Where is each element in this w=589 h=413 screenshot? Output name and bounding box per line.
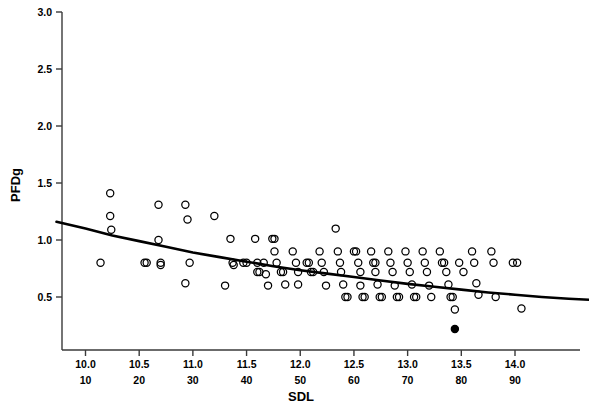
data-point (289, 248, 296, 255)
x-tick-label-secondary: 30 (187, 374, 199, 386)
data-point (227, 235, 234, 242)
data-point (492, 293, 499, 300)
x-tick-label-primary: 10.5 (129, 358, 150, 370)
data-point (456, 259, 463, 266)
data-point (357, 268, 364, 275)
y-axis-title: PFDg (8, 168, 23, 202)
scatter-plot-figure: 0.51.01.52.02.53.010.01010.52011.03011.5… (0, 0, 589, 413)
chart-canvas: 0.51.01.52.02.53.010.01010.52011.03011.5… (0, 0, 589, 413)
data-point (421, 259, 428, 266)
data-point (184, 216, 191, 223)
y-tick-label: 2.0 (37, 120, 52, 132)
data-point (460, 268, 467, 275)
data-point (368, 248, 375, 255)
x-axis-title: SDL (288, 389, 314, 404)
x-tick-label-primary: 10.0 (75, 358, 96, 370)
data-point (357, 282, 364, 289)
x-tick-label-primary: 13.5 (451, 358, 472, 370)
data-point (107, 190, 114, 197)
x-tick-label-primary: 13.0 (397, 358, 418, 370)
data-point (316, 248, 323, 255)
data-point (355, 259, 362, 266)
data-point (186, 259, 193, 266)
data-point (322, 282, 329, 289)
x-tick-label-secondary: 20 (133, 374, 145, 386)
data-point (419, 248, 426, 255)
x-tick-label-secondary: 90 (509, 374, 521, 386)
data-point (428, 293, 435, 300)
data-point (336, 259, 343, 266)
data-point (318, 259, 325, 266)
x-tick-label-secondary: 40 (241, 374, 253, 386)
y-tick-label: 1.0 (37, 234, 52, 246)
data-point (473, 280, 480, 287)
data-point-filled (451, 325, 458, 332)
x-tick-label-primary: 11.0 (183, 358, 203, 370)
data-point (451, 306, 458, 313)
data-point (406, 268, 413, 275)
data-point (490, 259, 497, 266)
data-point (292, 259, 299, 266)
data-point (423, 268, 430, 275)
data-point (340, 281, 347, 288)
axis-labels: 0.51.01.52.02.53.010.01010.52011.03011.5… (8, 6, 525, 404)
data-point (518, 305, 525, 312)
data-point (334, 248, 341, 255)
x-tick-label-secondary: 70 (402, 374, 414, 386)
data-point (402, 248, 409, 255)
y-tick-label: 0.5 (37, 291, 52, 303)
data-point (332, 225, 339, 232)
data-point (436, 248, 443, 255)
data-points (97, 190, 525, 333)
data-point (230, 261, 237, 268)
data-point (221, 282, 228, 289)
x-tick-label-primary: 12.0 (290, 358, 311, 370)
data-point (488, 248, 495, 255)
data-point (374, 281, 381, 288)
data-point (468, 248, 475, 255)
data-point (514, 259, 521, 266)
data-point (385, 248, 392, 255)
x-tick-label-secondary: 10 (80, 374, 92, 386)
data-point (107, 212, 114, 219)
data-point (443, 268, 450, 275)
data-point (155, 236, 162, 243)
data-point (262, 271, 269, 278)
data-point (389, 268, 396, 275)
y-tick-label: 1.5 (37, 177, 52, 189)
data-point (271, 248, 278, 255)
data-point (155, 201, 162, 208)
data-point (97, 259, 104, 266)
data-point (387, 259, 394, 266)
data-point (372, 268, 379, 275)
data-point (211, 212, 218, 219)
data-point (252, 235, 259, 242)
x-tick-label-primary: 14.0 (505, 358, 526, 370)
x-tick-label-primary: 11.5 (237, 358, 257, 370)
data-point (108, 226, 115, 233)
data-point (295, 281, 302, 288)
y-tick-label: 2.5 (37, 63, 52, 75)
y-tick-label: 3.0 (37, 6, 52, 18)
data-point (282, 281, 289, 288)
x-tick-label-secondary: 60 (348, 374, 360, 386)
x-tick-label-secondary: 80 (455, 374, 467, 386)
data-point (182, 280, 189, 287)
data-point (264, 282, 271, 289)
data-point (273, 259, 280, 266)
x-tick-label-secondary: 50 (294, 374, 306, 386)
data-point (471, 259, 478, 266)
axes (56, 12, 580, 356)
x-tick-label-primary: 12.5 (344, 358, 365, 370)
data-point (182, 201, 189, 208)
data-point (404, 259, 411, 266)
